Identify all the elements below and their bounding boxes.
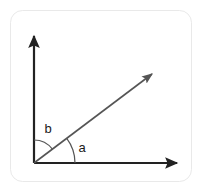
angle-label-a: a	[78, 140, 86, 155]
figure-root: a b	[0, 0, 203, 193]
rounded-frame	[11, 11, 192, 182]
angle-diagram-svg: a b	[0, 0, 203, 193]
angle-label-b: b	[44, 121, 51, 136]
